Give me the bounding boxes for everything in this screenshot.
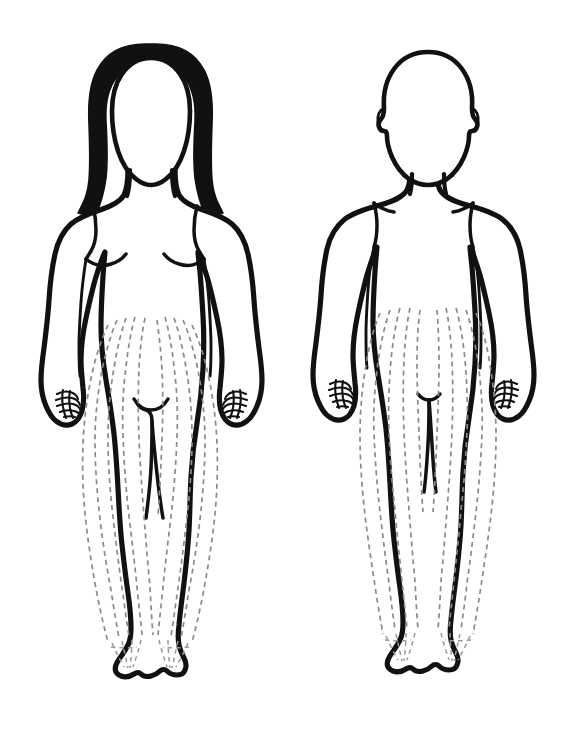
- sheet-background: [0, 0, 571, 740]
- male-neck-right: [444, 174, 446, 194]
- female-head-outline: [112, 58, 190, 185]
- male-neck-left: [410, 174, 412, 194]
- body-diagram-sheet: [0, 0, 571, 740]
- body-diagram-canvas: [0, 0, 571, 740]
